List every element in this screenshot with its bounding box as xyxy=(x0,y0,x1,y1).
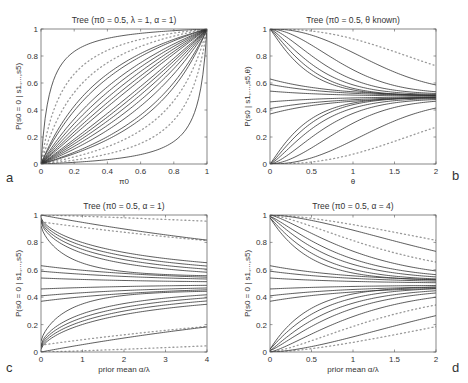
y-tick-label: 0.2 xyxy=(256,321,268,330)
solid-curve xyxy=(41,29,207,164)
x-tick-label: 0.5 xyxy=(306,355,318,364)
x-tick-label: 0.5 xyxy=(306,167,318,176)
solid-curve xyxy=(41,29,207,164)
solid-curve xyxy=(41,29,207,164)
axes-frame xyxy=(41,215,207,352)
y-tick-label: 0.6 xyxy=(27,266,39,275)
y-axis-label: P(s0 = 0 | s1,...,s5) xyxy=(14,250,23,318)
x-tick-label: 1.5 xyxy=(389,355,401,364)
x-tick-label: 1 xyxy=(351,167,356,176)
dotted-curve xyxy=(270,215,436,262)
x-tick-label: 0.2 xyxy=(69,167,81,176)
solid-curve xyxy=(270,215,436,271)
y-axis-label: P(s0 = 0 | s1,...,s5) xyxy=(14,63,23,131)
solid-curve xyxy=(41,295,207,345)
axes-frame xyxy=(270,29,436,164)
x-tick-label: 0.8 xyxy=(168,167,180,176)
x-tick-label: 3 xyxy=(163,355,168,364)
solid-curve xyxy=(41,29,207,164)
y-tick-label: 0.6 xyxy=(256,79,268,88)
x-tick-label: 1.5 xyxy=(389,167,401,176)
panel-d: 00.511.5200.20.40.60.81Tree (π0 = 0.5, α… xyxy=(243,201,439,374)
x-tick-label: 0 xyxy=(39,355,44,364)
y-tick-label: 0.2 xyxy=(27,133,39,142)
panel-letter-d: d xyxy=(452,360,459,375)
y-tick-label: 0.4 xyxy=(256,106,268,115)
solid-curve xyxy=(270,218,436,280)
plot-curves xyxy=(41,29,207,164)
x-axis-label: π0 xyxy=(119,177,130,186)
dotted-curve xyxy=(270,305,436,352)
x-tick-label: 0 xyxy=(39,167,44,176)
axes-frame xyxy=(41,29,207,164)
x-tick-label: 0 xyxy=(268,167,273,176)
solid-curve xyxy=(41,222,207,272)
x-tick-label: 1 xyxy=(205,167,210,176)
solid-curve xyxy=(41,29,207,164)
y-tick-label: 0.2 xyxy=(27,321,39,330)
y-tick-label: 0.8 xyxy=(27,238,39,247)
y-tick-label: 0.6 xyxy=(27,79,39,88)
panel-letter-b: b xyxy=(452,168,459,183)
plot-curves xyxy=(41,215,207,352)
y-tick-label: 0.8 xyxy=(256,52,268,61)
solid-curve xyxy=(270,297,436,352)
solid-curve xyxy=(41,29,207,164)
solid-curve xyxy=(41,29,207,164)
x-axis-label: prior mean α/λ xyxy=(327,365,378,374)
x-tick-label: 4 xyxy=(205,355,210,364)
y-tick-label: 0.8 xyxy=(27,52,39,61)
solid-curve xyxy=(41,29,207,164)
dotted-curve xyxy=(41,29,207,164)
y-tick-label: 1 xyxy=(263,25,268,34)
solid-curve xyxy=(41,29,207,164)
y-axis-label: P(s0 = 0 | s1,...,s5) xyxy=(243,250,252,318)
y-tick-label: 0.4 xyxy=(27,293,39,302)
x-tick-label: 2 xyxy=(122,355,127,364)
y-tick-label: 0 xyxy=(34,348,39,357)
dotted-curve xyxy=(270,327,436,352)
dotted-curve xyxy=(41,222,207,241)
panel-a: 00.20.40.60.8100.20.40.60.81Tree (π0 = 0… xyxy=(14,15,210,186)
solid-curve xyxy=(270,287,436,349)
y-tick-label: 1 xyxy=(34,25,39,34)
y-tick-label: 0 xyxy=(263,160,268,169)
x-tick-label: 2 xyxy=(434,167,439,176)
panel-letter-a: a xyxy=(6,170,13,185)
solid-curve xyxy=(41,29,207,164)
y-tick-label: 0.4 xyxy=(256,293,268,302)
chart-title: Tree (π0 = 0.5, α = 4) xyxy=(312,201,394,211)
panel-c: 0123400.20.40.60.81Tree (π0 = 0.5, α = 1… xyxy=(14,201,210,374)
y-tick-label: 0.4 xyxy=(27,106,39,115)
figure-canvas: 00.20.40.60.8100.20.40.60.81Tree (π0 = 0… xyxy=(0,0,468,383)
solid-curve xyxy=(41,29,207,164)
y-tick-label: 0 xyxy=(34,160,39,169)
y-axis-label: P(s0 | s1,...,s5,θ) xyxy=(243,66,252,127)
solid-curve xyxy=(41,220,207,269)
x-axis-label: θ xyxy=(351,177,356,186)
plot-curves xyxy=(270,215,436,352)
chart-title: Tree (π0 = 0.5, α = 1) xyxy=(83,201,165,211)
y-tick-label: 0 xyxy=(263,348,268,357)
panel-letter-c: c xyxy=(6,360,13,375)
dotted-curve xyxy=(41,29,207,164)
y-tick-label: 0.2 xyxy=(256,133,268,142)
plot-curves xyxy=(270,29,436,164)
chart-title: Tree (π0 = 0.5, θ known) xyxy=(306,15,400,25)
solid-curve xyxy=(41,29,207,164)
x-tick-label: 2 xyxy=(434,355,439,364)
y-tick-label: 0.8 xyxy=(256,238,268,247)
y-tick-label: 1 xyxy=(263,211,268,220)
x-tick-label: 1 xyxy=(351,355,356,364)
x-tick-label: 0.4 xyxy=(102,167,114,176)
dotted-curve xyxy=(41,29,207,164)
solid-curve xyxy=(41,29,207,164)
x-tick-label: 0 xyxy=(268,355,273,364)
chart-title: Tree (π0 = 0.5, λ = 1, α = 1) xyxy=(72,15,177,25)
y-tick-label: 1 xyxy=(34,211,39,220)
panel-b: 00.511.5200.20.40.60.81Tree (π0 = 0.5, θ… xyxy=(243,15,439,186)
solid-curve xyxy=(41,298,207,347)
solid-curve xyxy=(41,29,207,164)
dotted-curve xyxy=(41,29,207,164)
x-tick-label: 1 xyxy=(80,355,85,364)
